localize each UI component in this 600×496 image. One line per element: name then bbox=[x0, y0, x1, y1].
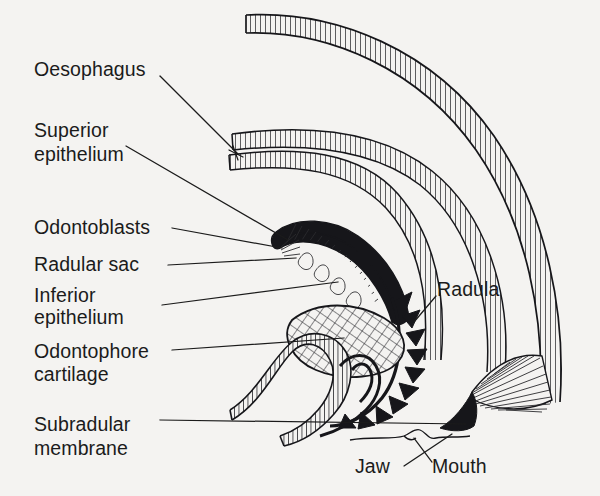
label-oesophagus: Oesophagus bbox=[34, 58, 146, 80]
label-odontophore-cartilage-line2: cartilage bbox=[34, 363, 109, 385]
mouth-opening bbox=[350, 430, 470, 440]
label-mouth: Mouth bbox=[432, 455, 487, 477]
label-odontoblasts: Odontoblasts bbox=[34, 216, 150, 238]
label-radula: Radula bbox=[437, 278, 499, 300]
label-inferior-epithelium-line2: epithelium bbox=[34, 306, 124, 328]
leader-inferior-epithelium bbox=[162, 282, 338, 305]
label-jaw: Jaw bbox=[355, 455, 391, 477]
label-subradular-membrane-line1: Subradular bbox=[34, 413, 131, 435]
label-superior-epithelium-line2: epithelium bbox=[34, 143, 124, 165]
buccal-musculature-fan bbox=[470, 355, 552, 412]
diagram-canvas: Oesophagus Superior epithelium Odontobla… bbox=[0, 0, 600, 496]
leader-mouth bbox=[414, 438, 432, 462]
leader-oesophagus bbox=[160, 76, 238, 154]
label-radular-sac: Radular sac bbox=[34, 253, 139, 275]
jaw bbox=[440, 392, 477, 431]
label-subradular-membrane-line2: membrane bbox=[34, 437, 128, 459]
label-inferior-epithelium-line1: Inferior bbox=[34, 284, 96, 306]
leader-radular-sac bbox=[168, 258, 296, 265]
radula-diagram-figure: Oesophagus Superior epithelium Odontobla… bbox=[0, 0, 600, 496]
leader-odontoblasts bbox=[172, 228, 282, 248]
developing-teeth bbox=[298, 253, 361, 309]
label-odontophore-cartilage-line1: Odontophore bbox=[34, 340, 149, 362]
label-superior-epithelium-line1: Superior bbox=[34, 119, 109, 141]
